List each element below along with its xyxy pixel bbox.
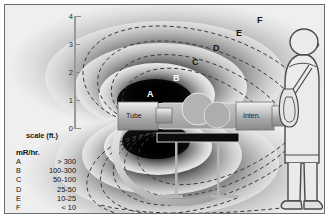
legend-row-b: B 100-300 bbox=[16, 166, 84, 175]
dose-legend: mR/hr. A > 300 B 100-300 C 50-100 D 25-5… bbox=[16, 148, 84, 212]
zone-label-b: B bbox=[173, 74, 180, 83]
axis-tick-2 bbox=[76, 72, 80, 73]
legend-key-f: F bbox=[16, 203, 27, 212]
legend-key-b: B bbox=[16, 166, 27, 175]
legend-title: mR/hr. bbox=[16, 148, 84, 157]
axis-label-0: 0 bbox=[61, 125, 73, 132]
zone-label-f: F bbox=[257, 16, 263, 25]
legend-row-f: F < 10 bbox=[16, 203, 84, 212]
tube-label: Tube bbox=[126, 112, 142, 119]
axis-cap-bottom bbox=[76, 128, 81, 129]
isodose-figure: 4 3 2 1 0 scale (ft.) A B C D E F Tube I… bbox=[0, 0, 329, 218]
scale-axis: 4 3 2 1 0 bbox=[57, 13, 83, 131]
legend-key-a: A bbox=[16, 157, 27, 166]
axis-cap-top bbox=[76, 16, 81, 17]
legend-row-a: A > 300 bbox=[16, 157, 84, 166]
legend-value-c: 50-100 bbox=[53, 175, 84, 184]
zone-label-e: E bbox=[236, 29, 242, 38]
zone-label-a: A bbox=[147, 90, 154, 99]
zone-label-c: C bbox=[192, 58, 199, 67]
axis-label-3: 3 bbox=[61, 41, 73, 48]
legend-key-c: C bbox=[16, 175, 27, 184]
scale-caption: scale (ft.) bbox=[26, 131, 58, 140]
legend-row-c: C 50-100 bbox=[16, 175, 84, 184]
axis-label-2: 2 bbox=[61, 69, 73, 76]
legend-value-d: 25-50 bbox=[57, 185, 84, 194]
legend-value-e: 10-25 bbox=[57, 194, 84, 203]
axis-label-4: 4 bbox=[61, 13, 73, 20]
axis-tick-1 bbox=[76, 100, 80, 101]
legend-value-f: < 10 bbox=[61, 203, 84, 212]
axis-tick-3 bbox=[76, 44, 80, 45]
plot-frame: 4 3 2 1 0 scale (ft.) A B C D E F Tube I… bbox=[4, 4, 325, 214]
zone-label-d: D bbox=[213, 44, 220, 53]
legend-value-a: > 300 bbox=[57, 157, 84, 166]
legend-key-e: E bbox=[16, 194, 27, 203]
legend-row-d: D 25-50 bbox=[16, 185, 84, 194]
legend-value-b: 100-300 bbox=[49, 166, 84, 175]
intensifier-label: Inten. bbox=[243, 112, 261, 119]
legend-row-e: E 10-25 bbox=[16, 194, 84, 203]
legend-key-d: D bbox=[16, 185, 27, 194]
axis-label-1: 1 bbox=[61, 97, 73, 104]
